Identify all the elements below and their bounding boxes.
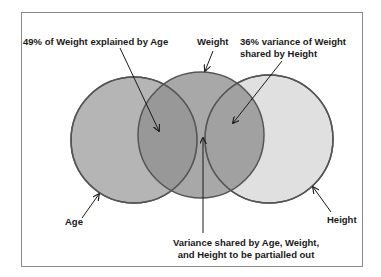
label-age-weight: 49% of Weight explained by Age [23, 36, 168, 47]
label-weight-height-2: shared by Height [240, 48, 318, 59]
label-shared-2: and Height to be partialled out [178, 249, 316, 260]
label-age: Age [65, 216, 83, 227]
weight-circle [138, 72, 264, 198]
label-weight-height-1: 36% variance of Weight [240, 36, 347, 47]
label-height: Height [327, 214, 357, 225]
label-shared-1: Variance shared by Age, Weight, [173, 237, 319, 248]
label-weight: Weight [197, 36, 229, 47]
venn-diagram: 49% of Weight explained by Age Weight 36… [0, 0, 381, 277]
